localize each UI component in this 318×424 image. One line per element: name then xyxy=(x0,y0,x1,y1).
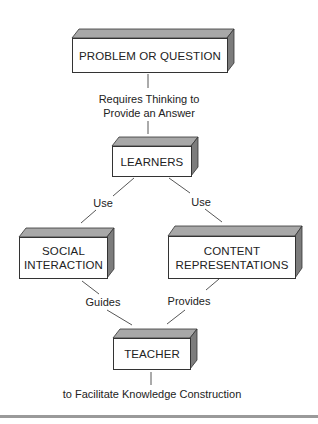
node-social-interaction: SOCIAL INTERACTION xyxy=(19,237,108,279)
node-learners: LEARNERS xyxy=(112,146,192,177)
node-label-line1: CONTENT xyxy=(204,244,260,258)
edge-label-requires-thinking: Requires Thinking to Provide an Answer xyxy=(74,92,224,120)
edge-label-guides: Guides xyxy=(80,296,126,309)
node-label-line1: SOCIAL xyxy=(42,244,85,258)
edge-learners-social-lower xyxy=(81,210,96,223)
edge-label-line: Provide an Answer xyxy=(74,106,224,120)
edge-label-use-right: Use xyxy=(186,196,216,209)
footer-caption: to Facilitate Knowledge Construction xyxy=(40,388,264,401)
edge-learners-social-upper xyxy=(113,178,134,196)
node-problem-or-question: PROBLEM OR QUESTION xyxy=(72,38,228,73)
bottom-rule xyxy=(0,415,318,418)
edge-label-line: Requires Thinking to xyxy=(74,92,224,106)
edge-content-teacher-upper xyxy=(206,279,219,290)
edge-learners-content-upper xyxy=(169,178,190,193)
edge-content-teacher-lower xyxy=(167,310,185,324)
edge-label-provides: Provides xyxy=(164,295,214,308)
node-content-representations: CONTENT REPRESENTATIONS xyxy=(168,236,296,279)
node-label: PROBLEM OR QUESTION xyxy=(79,49,221,63)
node-label: LEARNERS xyxy=(121,155,184,169)
node-label: TEACHER xyxy=(124,347,180,361)
edge-label-use-left: Use xyxy=(88,197,118,210)
node-label-line2: REPRESENTATIONS xyxy=(176,258,289,272)
node-label-line2: INTERACTION xyxy=(24,258,103,272)
edge-social-teacher-lower xyxy=(107,310,132,325)
edge-learners-content-lower xyxy=(205,209,222,222)
edge-social-teacher-upper xyxy=(82,281,99,294)
node-teacher: TEACHER xyxy=(113,338,191,370)
